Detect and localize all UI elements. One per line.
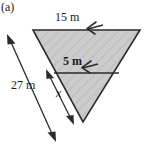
- inner-line-length-label: 5 m: [63, 55, 82, 67]
- part-label: (a): [1, 1, 14, 13]
- unknown-segment-label: x: [56, 87, 61, 99]
- top-side-length-label: 15 m: [55, 11, 79, 23]
- geometry-figure: (a) 15 m 5 m 27 m x: [0, 0, 144, 147]
- left-side-length-label: 27 m: [11, 79, 35, 91]
